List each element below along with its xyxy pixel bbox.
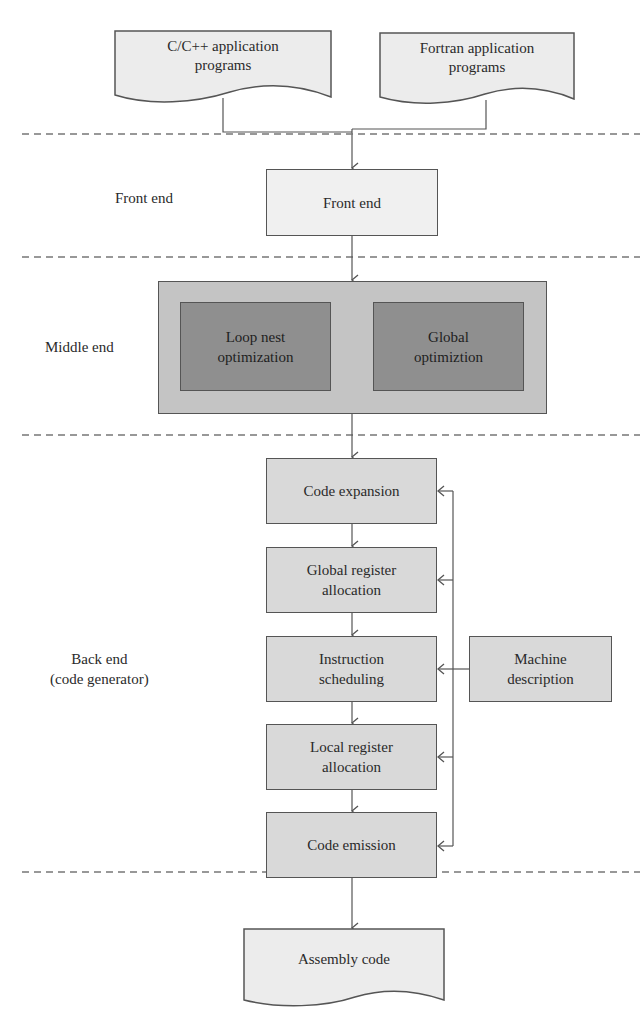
local-reg-line2: allocation <box>322 757 381 777</box>
instr-sched-line1: Instruction <box>319 649 384 669</box>
code-emission-box: Code emission <box>266 812 437 878</box>
loop-nest-line2: optimization <box>218 347 294 367</box>
front-end-box-label: Front end <box>323 193 381 213</box>
machine-description-box: Machine description <box>469 636 612 702</box>
front-end-box: Front end <box>266 169 438 236</box>
code-emission-label: Code emission <box>307 835 396 855</box>
assembly-code-label: Assembly code <box>298 951 390 967</box>
global-reg-line2: allocation <box>322 580 381 600</box>
code-expansion-label: Code expansion <box>303 481 399 501</box>
machine-desc-line2: description <box>507 669 574 689</box>
fortran-label-line1: Fortran application <box>380 39 574 58</box>
global-register-allocation-box: Global register allocation <box>266 547 437 613</box>
middle-end-side-label: Middle end <box>45 337 114 357</box>
cpp-label-line1: C/C++ application <box>115 37 331 56</box>
code-expansion-box: Code expansion <box>266 458 437 524</box>
cpp-programs-document: C/C++ application programs <box>115 37 331 75</box>
global-opt-line2: optimiztion <box>414 347 483 367</box>
back-end-label-line1: Back end <box>50 649 149 669</box>
global-opt-line1: Global <box>428 327 469 347</box>
fortran-programs-document: Fortran application programs <box>380 39 574 77</box>
global-reg-line1: Global register <box>307 560 397 580</box>
global-optimization-box: Global optimiztion <box>373 302 524 391</box>
loop-nest-line1: Loop nest <box>226 327 286 347</box>
machine-desc-line1: Machine <box>514 649 566 669</box>
cpp-label-line2: programs <box>115 56 331 75</box>
front-end-side-label: Front end <box>115 188 173 208</box>
instruction-scheduling-box: Instruction scheduling <box>266 636 437 702</box>
loop-nest-optimization-box: Loop nest optimization <box>180 302 331 391</box>
back-end-side-label: Back end (code generator) <box>50 649 149 689</box>
local-register-allocation-box: Local register allocation <box>266 724 437 790</box>
instr-sched-line2: scheduling <box>319 669 384 689</box>
local-reg-line1: Local register <box>310 737 393 757</box>
back-end-label-line2: (code generator) <box>50 669 149 689</box>
assembly-code-document: Assembly code <box>244 950 444 969</box>
fortran-label-line2: programs <box>380 58 574 77</box>
